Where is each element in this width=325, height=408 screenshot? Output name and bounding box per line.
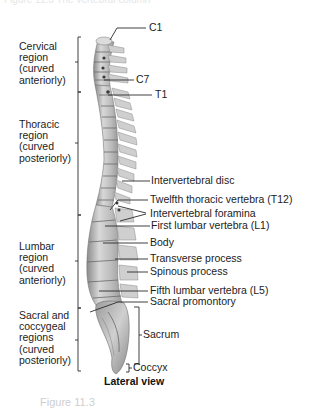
region-label-cervical: Cervical region (curved anteriorly) xyxy=(19,41,66,86)
sacrum-coccyx xyxy=(96,301,129,374)
label-body: Body xyxy=(150,237,174,248)
region-brackets xyxy=(75,37,81,371)
label-coccyx: Coccyx xyxy=(133,362,167,373)
label-c1: C1 xyxy=(149,22,162,33)
label-sacral-promontory: Sacral promontory xyxy=(150,296,236,307)
label-intervertebral-disc: Intervertebral disc xyxy=(151,175,234,186)
atlas-c1 xyxy=(96,37,112,45)
faint-caption: Figure 11.3 xyxy=(40,396,95,408)
diagram-title: Lateral view xyxy=(104,375,164,387)
label-intervertebral-foramina: Intervertebral foramina xyxy=(150,208,256,219)
label-c7: C7 xyxy=(136,74,149,85)
label-transverse-process: Transverse process xyxy=(150,253,242,264)
region-label-thoracic: Thoracic region (curved posteriorly) xyxy=(19,119,71,164)
region-label-lumbar: Lumbar region (curved anteriorly) xyxy=(19,241,66,286)
label-l1: First lumbar vertebra (L1) xyxy=(151,220,269,231)
label-sacrum: Sacrum xyxy=(143,329,179,340)
label-spinous-process: Spinous process xyxy=(150,266,228,277)
region-label-sacral-coccygeal: Sacral and coccygeal regions (curved pos… xyxy=(19,310,71,366)
label-t12: Twelfth thoracic vertebra (T12) xyxy=(150,194,292,205)
label-t1: T1 xyxy=(155,89,167,100)
